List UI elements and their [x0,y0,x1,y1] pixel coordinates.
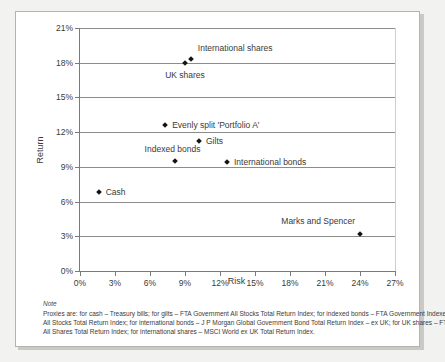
note-heading: Note [43,300,403,307]
y-axis-title: Return [35,136,45,163]
gridline-y-0% [80,271,395,272]
y-tick-6% [75,202,80,203]
plot-area: 0%3%6%9%12%15%18%21% 0%3%6%9%12%15%18%21… [79,28,396,271]
y-tick-label-3%: 3% [61,231,73,241]
note-line: All Shares Total Return Index; for inter… [43,327,403,336]
data-point[interactable] [172,158,178,164]
note-line: All Stocks Total Return Index; for inter… [43,318,403,327]
data-point-label: UK shares [165,70,205,80]
y-tick-12% [75,132,80,133]
note-line: Proxies are: for cash – Treasury bills; … [43,309,403,318]
data-point-label: Indexed bonds [145,144,201,154]
data-point[interactable] [182,60,188,66]
data-point[interactable] [224,159,230,165]
y-tick-label-6%: 6% [61,197,73,207]
y-tick-label-0%: 0% [61,266,73,276]
y-tick-label-9%: 9% [61,162,73,172]
data-point[interactable] [188,56,194,62]
x-axis-title: Risk [79,276,394,286]
data-point-label: Evenly split 'Portfolio A' [172,120,259,130]
x-tick-27% [395,271,396,276]
data-point-label: International shares [198,43,273,53]
y-tick-label-12%: 12% [56,127,73,137]
data-point-label: Gilts [206,136,223,146]
data-point-label: International bonds [234,157,306,167]
y-tick-3% [75,236,80,237]
data-point[interactable] [162,122,168,128]
note-block: Note Proxies are: for cash – Treasury bi… [43,300,403,336]
y-tick-label-21%: 21% [56,23,73,33]
y-tick-18% [75,63,80,64]
gridline-y-21% [80,28,395,29]
y-tick-label-15%: 15% [56,92,73,102]
note-body: Proxies are: for cash – Treasury bills; … [43,309,403,336]
y-tick-label-18%: 18% [56,58,73,68]
gridline-y-15% [80,97,395,98]
data-point[interactable] [96,189,102,195]
scatter-chart: Return 0%3%6%9%12%15%18%21% 0%3%6%9%12%1… [16,12,421,348]
y-tick-15% [75,97,80,98]
y-tick-21% [75,28,80,29]
gridline-y-3% [80,236,395,237]
gridline-y-18% [80,63,395,64]
figure-card: Return 0%3%6%9%12%15%18%21% 0%3%6%9%12%1… [15,11,420,347]
data-point-label: Marks and Spencer [281,216,355,226]
gridline-y-12% [80,132,395,133]
figure-root: Return 0%3%6%9%12%15%18%21% 0%3%6%9%12%1… [0,0,445,362]
y-tick-9% [75,167,80,168]
gridline-y-6% [80,202,395,203]
data-point-label: Cash [106,187,126,197]
